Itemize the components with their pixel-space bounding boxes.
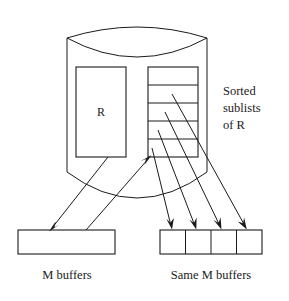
- sorted-sublists-annotation: Sorted sublists of R: [223, 84, 261, 132]
- sorted-sublists-box: [148, 67, 198, 157]
- relation-r-box: R: [76, 67, 126, 157]
- m-buffers-rect: [18, 230, 115, 254]
- sublists-rect: [148, 67, 198, 157]
- annotation-line-3: of R: [223, 118, 246, 132]
- diagram-root: R Sorted sublists of R M buffers Sam: [0, 0, 289, 301]
- annotation-line-1: Sorted: [223, 84, 256, 98]
- same-m-buffers-box: Same M buffers: [160, 230, 262, 282]
- m-buffers-caption: M buffers: [42, 268, 92, 282]
- arrow-merge-4-head: [238, 217, 247, 229]
- diagram-canvas: R Sorted sublists of R M buffers Sam: [0, 0, 289, 301]
- arrow-write-sublists-head: [141, 155, 152, 165]
- relation-r-label: R: [97, 105, 105, 119]
- arrow-write-sublists-line: [86, 158, 149, 230]
- arrow-merge-1-line: [152, 148, 171, 226]
- arrow-write-sublists: [86, 155, 152, 230]
- cylinder-top-front-arc: [67, 27, 207, 38]
- m-buffers-box: M buffers: [18, 230, 115, 282]
- arrow-merge-3-head: [214, 217, 222, 229]
- arrow-merge-1-head: [166, 218, 174, 230]
- cylinder-top-back-arc: [67, 38, 207, 57]
- arrow-read-relation: [49, 157, 108, 232]
- annotation-line-2: sublists: [223, 101, 261, 115]
- arrow-read-relation-line: [52, 157, 108, 228]
- arrow-merge-1: [152, 148, 174, 230]
- same-m-buffers-caption: Same M buffers: [171, 268, 251, 282]
